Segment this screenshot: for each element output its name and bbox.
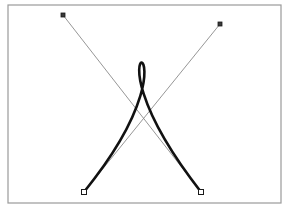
bezier-canvas-root xyxy=(0,0,290,211)
control-point-left-handle-icon[interactable] xyxy=(61,13,65,17)
bezier-figure-svg xyxy=(0,0,290,211)
control-point-right-handle-icon[interactable] xyxy=(218,22,222,26)
anchor-point-start-icon[interactable] xyxy=(82,190,87,195)
anchor-point-end-icon[interactable] xyxy=(199,190,204,195)
canvas-frame xyxy=(8,5,281,203)
